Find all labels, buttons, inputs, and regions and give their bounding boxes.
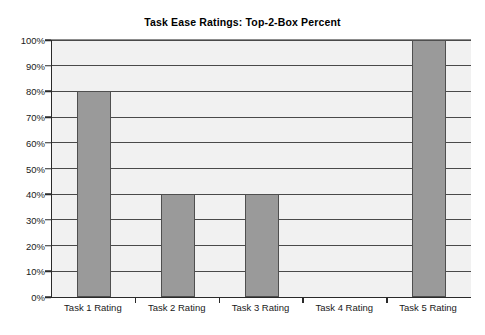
gridline (52, 117, 471, 118)
x-axis-tick-label: Task 1 Rating (64, 302, 122, 313)
gridline (52, 65, 471, 66)
bar (245, 194, 279, 297)
x-axis-tick-label: Task 5 Rating (399, 302, 457, 313)
plot-area (51, 40, 471, 298)
gridline (52, 40, 471, 41)
bar (77, 91, 111, 297)
gridline (52, 91, 471, 92)
x-axis-tick-label: Task 3 Rating (232, 302, 290, 313)
x-axis-tick-label: Task 2 Rating (148, 302, 206, 313)
bar (412, 40, 446, 297)
bar (161, 194, 195, 297)
y-axis-tick-marks (0, 40, 51, 297)
bar-chart: Task Ease Ratings: Top-2-Box Percent 0%1… (0, 0, 485, 335)
x-axis-tick-label: Task 4 Rating (316, 302, 374, 313)
gridline (52, 142, 471, 143)
x-axis-tick-labels: Task 1 RatingTask 2 RatingTask 3 RatingT… (51, 302, 470, 324)
chart-title: Task Ease Ratings: Top-2-Box Percent (0, 16, 485, 28)
gridline (52, 168, 471, 169)
